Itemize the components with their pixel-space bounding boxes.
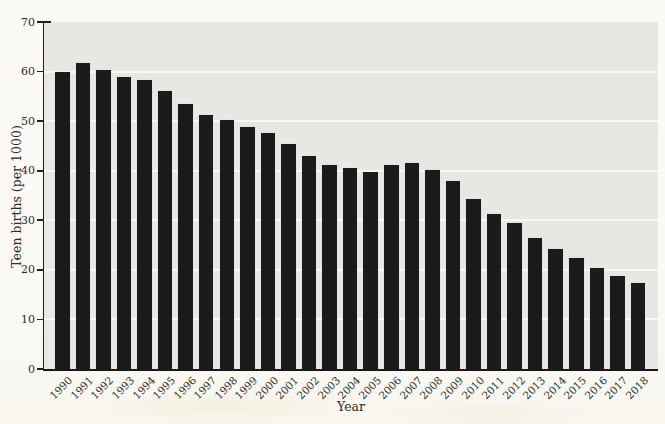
bar-2015 [569, 258, 584, 369]
x-axis-line [43, 369, 658, 371]
gridline-50 [44, 120, 658, 122]
y-tick-label-70: 70 [9, 16, 35, 29]
bar-2005 [363, 172, 378, 369]
bar-2017 [610, 276, 625, 369]
bar-1991 [76, 63, 91, 369]
bar-2014 [548, 249, 563, 369]
bar-1997 [199, 115, 214, 369]
y-tick-label-10: 10 [9, 313, 35, 326]
bar-1999 [240, 127, 255, 369]
bar-2011 [487, 214, 502, 369]
y-tick-60 [37, 71, 43, 73]
bar-2009 [446, 181, 461, 369]
y-tick-label-20: 20 [9, 263, 35, 276]
bar-1990 [55, 72, 70, 369]
bar-1995 [158, 91, 173, 369]
bar-1993 [117, 77, 132, 369]
bar-2018 [631, 283, 646, 369]
y-tick-label-40: 40 [9, 164, 35, 177]
y-axis-title: Teen births (per 1000) [9, 122, 24, 272]
bar-2008 [425, 170, 440, 369]
bar-1998 [220, 120, 235, 369]
y-tick-label-50: 50 [9, 115, 35, 128]
gridline-60 [44, 71, 658, 73]
bar-2001 [281, 144, 296, 369]
bar-2016 [590, 268, 605, 369]
bar-2010 [466, 199, 481, 369]
y-tick-10 [37, 319, 43, 321]
y-tick-label-0: 0 [9, 363, 35, 376]
bar-2002 [302, 156, 317, 369]
y-tick-30 [37, 219, 43, 221]
bar-2006 [384, 165, 399, 369]
bar-1994 [137, 80, 152, 369]
bar-2004 [343, 168, 358, 369]
y-tick-70 [37, 21, 43, 23]
bar-1996 [178, 104, 193, 369]
bar-2012 [507, 223, 522, 369]
plot-area [44, 22, 658, 369]
bar-1992 [96, 70, 111, 369]
bar-2003 [322, 165, 337, 369]
teen-births-bar-chart-figure: Teen births (per 1000) 010203040506070 1… [0, 0, 665, 424]
y-tick-20 [37, 269, 43, 271]
bar-2007 [405, 163, 420, 369]
y-tick-40 [37, 170, 43, 172]
y-tick-label-60: 60 [9, 65, 35, 78]
y-tick-50 [37, 120, 43, 122]
y-tick-0 [37, 368, 43, 370]
x-axis-title: Year [281, 399, 421, 414]
bar-2000 [261, 133, 276, 369]
y-tick-label-30: 30 [9, 214, 35, 227]
y-axis-top-cap [43, 21, 51, 23]
bar-2013 [528, 238, 543, 369]
